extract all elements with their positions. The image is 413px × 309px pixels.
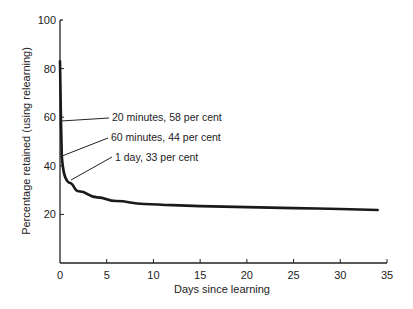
y-tick-label: 80 xyxy=(44,63,56,75)
y-tick-label: 60 xyxy=(44,111,56,123)
annotation-leader-1day xyxy=(71,157,112,180)
x-tick-label: 0 xyxy=(57,269,63,281)
y-tick-label: 40 xyxy=(44,160,56,172)
y-tick-label: 100 xyxy=(38,14,56,26)
forgetting-curve-chart: 20406080100 05101520253035 20 minutes, 5… xyxy=(0,0,413,309)
x-tick-label: 10 xyxy=(147,269,159,281)
annotation-1day: 1 day, 33 per cent xyxy=(115,151,198,163)
x-tick-label: 20 xyxy=(241,269,253,281)
x-tick-label: 25 xyxy=(287,269,299,281)
x-axis-label: Days since learning xyxy=(174,283,270,295)
axes xyxy=(60,20,387,263)
annotation-leader-20min xyxy=(61,118,109,121)
x-tick-label: 5 xyxy=(104,269,110,281)
annotation-20min: 20 minutes, 58 per cent xyxy=(112,111,222,123)
x-tick-label: 15 xyxy=(194,269,206,281)
y-tick-label: 20 xyxy=(44,208,56,220)
x-tick-label: 30 xyxy=(334,269,346,281)
x-tick-label: 35 xyxy=(381,269,393,281)
annotation-leader-60min xyxy=(62,138,108,156)
y-axis-label: Percentage retained (using relearning) xyxy=(20,47,32,235)
annotation-leaders xyxy=(61,118,112,180)
annotation-60min: 60 minutes, 44 per cent xyxy=(111,131,221,143)
x-ticks: 05101520253035 xyxy=(57,259,393,281)
